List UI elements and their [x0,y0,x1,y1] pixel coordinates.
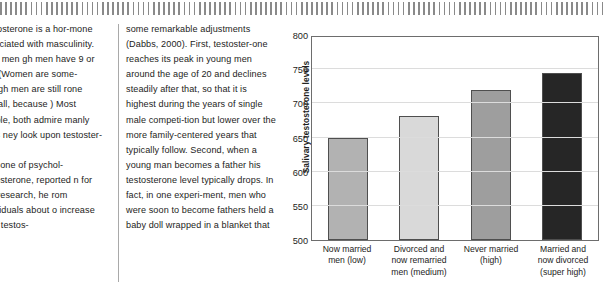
column-divider [118,24,119,282]
y-tick-label: 750 [282,65,308,75]
paragraph: bbs, one of psychol-testosterone, report… [0,158,106,233]
bar [471,90,511,240]
gridline [312,171,598,172]
y-tick-label: 700 [282,99,308,109]
text-column-right: some remarkable adjustments (Dabbs, 2000… [126,22,276,233]
bar [399,116,439,240]
y-tick-label: 600 [282,168,308,178]
bar [328,138,368,241]
decorative-striped-rule [0,2,603,15]
x-tick-label: Married andnow divorced(super high) [527,244,599,278]
y-tick-label: 800 [282,31,308,41]
y-tick-label: 550 [282,202,308,212]
y-tick-label: 500 [282,236,308,246]
gridline [312,102,598,103]
x-axis-tick-labels: Now marriedmen (low)Divorced andnow rema… [311,244,599,278]
gridline [312,68,598,69]
paragraph: Testosterone is a hor-mone associated wi… [0,22,106,143]
gridline [312,137,598,138]
bar [542,73,582,240]
x-tick-label: Divorced andnow remarriedmen (medium) [383,244,455,278]
y-tick-label: 650 [282,134,308,144]
textbook-page: Testosterone is a hor-mone associated wi… [0,0,603,286]
x-tick-label: Never married(high) [455,244,527,278]
bar-chart-figure: Salivary testosterone levels 80075070065… [282,20,603,286]
x-tick-label: Now marriedmen (low) [311,244,383,278]
gridline [312,205,598,206]
plot-area [311,36,599,241]
text-column-left: Testosterone is a hor-mone associated wi… [0,22,106,233]
y-axis-tick-labels: 800750700650600550500 [282,20,308,244]
paragraph: some remarkable adjustments (Dabbs, 2000… [126,22,276,233]
